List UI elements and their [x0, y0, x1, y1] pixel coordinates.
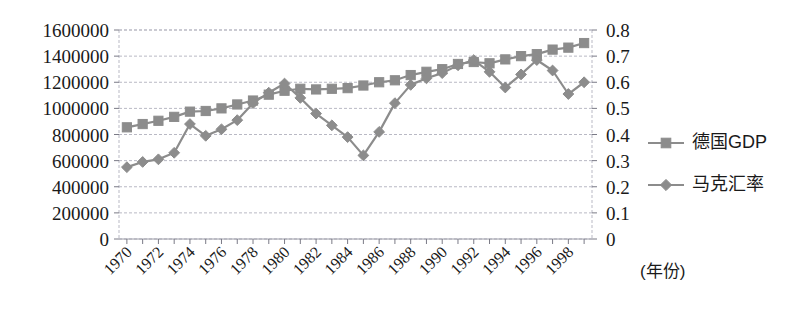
legend-label: 马克汇率	[692, 174, 764, 194]
data-point-marker	[580, 38, 589, 47]
left-axis-tick-label: 800000	[52, 125, 109, 146]
data-point-marker	[327, 84, 336, 93]
right-axis-tick-label: 0.4	[606, 125, 630, 146]
data-point-marker	[185, 107, 194, 116]
data-point-marker	[201, 106, 210, 115]
data-point-marker	[343, 84, 352, 93]
left-axis-tick-label: 1600000	[43, 20, 110, 41]
data-point-marker	[516, 52, 525, 61]
left-axis-tick-label: 200000	[52, 203, 109, 224]
legend-square-marker-icon	[661, 138, 671, 148]
legend-label: 德国GDP	[692, 132, 767, 152]
data-point-marker	[390, 76, 399, 85]
data-point-marker	[311, 85, 320, 94]
right-axis-labels: 00.10.20.30.40.50.60.70.8	[606, 20, 630, 250]
right-axis-tick-label: 0.3	[606, 151, 630, 172]
data-point-marker	[170, 112, 179, 121]
left-axis-tick-label: 600000	[52, 151, 109, 172]
data-point-marker	[138, 119, 147, 128]
data-point-marker	[122, 123, 131, 132]
right-axis-tick-label: 0.2	[606, 177, 630, 198]
dual-axis-line-chart: 0200000400000600000800000100000012000001…	[0, 0, 807, 314]
right-axis-tick-label: 0	[606, 229, 616, 250]
right-axis-tick-label: 0.8	[606, 20, 630, 41]
left-axis-tick-label: 1200000	[43, 72, 110, 93]
left-axis-tick-label: 1000000	[43, 98, 110, 119]
data-point-marker	[154, 116, 163, 125]
data-point-marker	[564, 43, 573, 52]
right-axis-tick-label: 0.7	[606, 46, 630, 67]
data-point-marker	[217, 104, 226, 113]
data-point-marker	[233, 100, 242, 109]
left-axis-tick-label: 400000	[52, 177, 109, 198]
right-axis-tick-label: 0.6	[606, 72, 630, 93]
right-axis-tick-label: 0.5	[606, 98, 630, 119]
data-point-marker	[501, 55, 510, 64]
left-axis-tick-label: 1400000	[43, 46, 110, 67]
chart-container: 0200000400000600000800000100000012000001…	[0, 0, 807, 314]
data-point-marker	[375, 78, 384, 87]
x-axis-title: (年份)	[640, 262, 685, 281]
data-point-marker	[406, 70, 415, 79]
data-point-marker	[359, 81, 368, 90]
left-axis-tick-label: 0	[100, 229, 110, 250]
data-point-marker	[548, 45, 557, 54]
left-axis-labels: 0200000400000600000800000100000012000001…	[43, 20, 110, 250]
right-axis-tick-label: 0.1	[606, 203, 630, 224]
